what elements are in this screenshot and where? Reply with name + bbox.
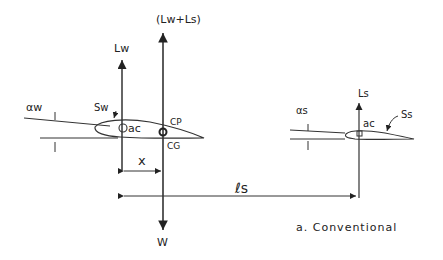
wing-reference-lines — [24, 112, 118, 152]
cg-label: CG — [167, 141, 180, 151]
stab-ac-label: ac — [363, 118, 375, 129]
wing-ac-label: ac — [128, 122, 141, 135]
wing-airfoil — [95, 120, 204, 138]
total-lift-label: (Lw+Ls) — [156, 13, 201, 26]
ls-dim-label: ℓs — [234, 180, 248, 196]
cp-label: CP — [170, 117, 182, 127]
stab-alpha-label: αs — [296, 105, 308, 116]
wing-lift-label: Lw — [114, 42, 129, 55]
weight-label: W — [157, 236, 168, 249]
force-diagram: (Lw+Ls) Lw αw Sw ac CP CG x ℓs W Ls αs a… — [0, 0, 443, 260]
x-dim-label: x — [138, 153, 146, 168]
caption: a. Conventional — [296, 221, 397, 234]
wing-ac-marker — [119, 124, 127, 132]
wing-area-label: Sw — [94, 102, 109, 113]
stab-area-label: Ss — [401, 109, 413, 120]
stab-reference-lines — [290, 124, 345, 150]
stab-lift-label: Ls — [358, 88, 369, 99]
stab-airfoil — [345, 131, 414, 140]
wing-area-leader — [114, 111, 116, 118]
wing-alpha-label: αw — [26, 101, 42, 114]
stab-area-leader — [387, 116, 398, 131]
